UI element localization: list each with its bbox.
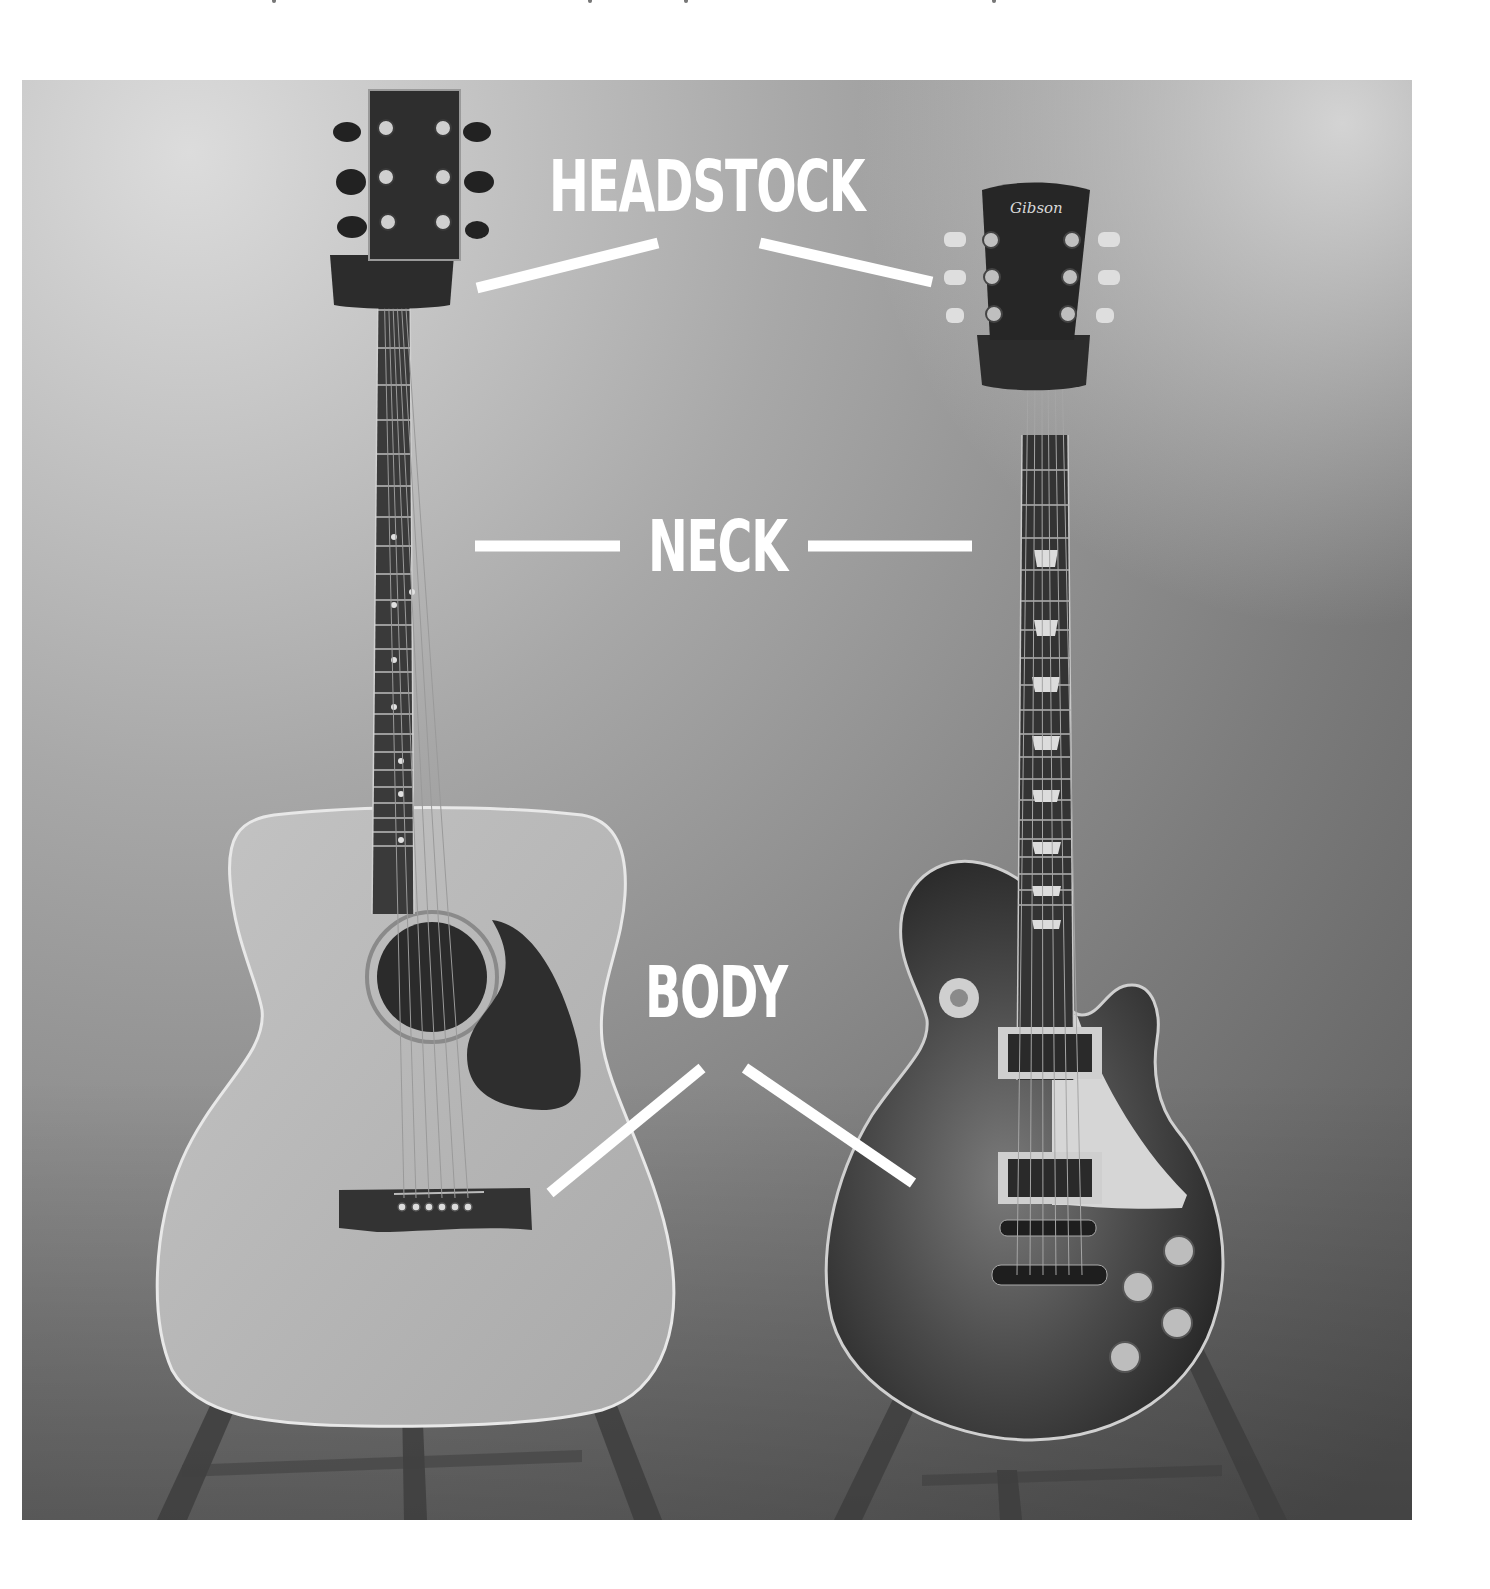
descender-mark [684,0,688,3]
label-neck: NECK [648,510,787,582]
gibson-logo: Gibson [1010,199,1063,217]
acoustic-body [157,808,674,1427]
acoustic-bridge [339,1188,532,1232]
cropped-text-descenders [0,0,1490,10]
tune-o-matic-bridge [1000,1220,1096,1236]
electric-stand-yoke [977,335,1090,390]
acoustic-stand-yoke [330,255,454,309]
descender-mark [588,0,592,3]
label-body: BODY [645,956,787,1028]
descender-mark [992,0,996,3]
stopbar-tailpiece [992,1265,1107,1285]
label-headstock: HEADSTOCK [549,150,864,222]
descender-mark [272,0,276,3]
soundhole [377,922,487,1032]
guitar-photo: Gibson HEADSTOCK NECK BODY [22,80,1412,1520]
bridge-pickup [998,1152,1102,1204]
guitar-illustration: Gibson [22,80,1412,1520]
neck-pickup [998,1027,1102,1079]
